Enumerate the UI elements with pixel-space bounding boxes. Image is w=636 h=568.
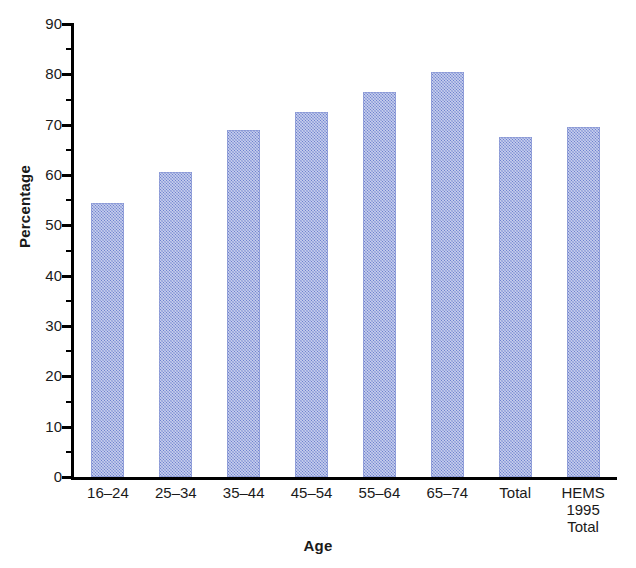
plot-area bbox=[74, 24, 617, 477]
y-axis-tick-labels: 9080706050403020100 bbox=[28, 0, 62, 568]
y-axis-tick bbox=[62, 124, 74, 127]
y-tick-label: 70 bbox=[28, 117, 62, 132]
y-axis-tick bbox=[62, 325, 74, 328]
y-axis-minor-tick bbox=[66, 451, 74, 453]
bar bbox=[91, 203, 124, 477]
x-tick-label: 55–64 bbox=[346, 484, 414, 501]
x-tick-label-line: 65–74 bbox=[413, 484, 481, 501]
y-axis-minor-tick bbox=[66, 48, 74, 50]
y-axis-minor-tick bbox=[66, 350, 74, 352]
x-tick-label-line: 1995 bbox=[549, 501, 617, 518]
y-axis-tick bbox=[62, 375, 74, 378]
bar bbox=[227, 130, 260, 477]
y-tick-label: 0 bbox=[28, 469, 62, 484]
x-tick-label-line: HEMS bbox=[549, 484, 617, 501]
x-tick-label-line: 25–34 bbox=[142, 484, 210, 501]
y-tick-label: 40 bbox=[28, 268, 62, 283]
bar bbox=[159, 172, 192, 477]
y-tick-label: 20 bbox=[28, 368, 62, 383]
y-axis-minor-tick bbox=[66, 149, 74, 151]
x-tick-label-line: Total bbox=[549, 518, 617, 535]
y-axis-tick bbox=[62, 476, 74, 479]
y-tick-label: 90 bbox=[28, 16, 62, 31]
x-tick-label: 16–24 bbox=[74, 484, 142, 501]
y-axis-minor-tick bbox=[66, 250, 74, 252]
y-tick-label: 30 bbox=[28, 318, 62, 333]
y-axis-tick bbox=[62, 224, 74, 227]
x-axis-title: Age bbox=[0, 537, 636, 554]
x-tick-label: 35–44 bbox=[210, 484, 278, 501]
y-axis-tick bbox=[62, 174, 74, 177]
x-tick-label-line: Total bbox=[481, 484, 549, 501]
x-tick-label: 65–74 bbox=[413, 484, 481, 501]
y-axis-tick bbox=[62, 23, 74, 26]
y-axis-tick bbox=[62, 73, 74, 76]
bar bbox=[295, 112, 328, 477]
x-tick-label-line: 16–24 bbox=[74, 484, 142, 501]
y-axis-tick bbox=[62, 275, 74, 278]
bar bbox=[431, 72, 464, 477]
x-tick-label: 25–34 bbox=[142, 484, 210, 501]
y-axis-tick bbox=[62, 426, 74, 429]
bar-chart: Percentage 9080706050403020100 16–2425–3… bbox=[0, 0, 636, 568]
bar bbox=[567, 127, 600, 477]
bar bbox=[363, 92, 396, 477]
y-tick-label: 60 bbox=[28, 167, 62, 182]
y-axis-minor-tick bbox=[66, 401, 74, 403]
x-tick-label: 45–54 bbox=[278, 484, 346, 501]
y-axis-minor-tick bbox=[66, 199, 74, 201]
x-tick-label-line: 35–44 bbox=[210, 484, 278, 501]
y-axis-minor-tick bbox=[66, 300, 74, 302]
x-tick-label-line: 55–64 bbox=[346, 484, 414, 501]
y-axis-minor-tick bbox=[66, 99, 74, 101]
x-tick-label: HEMS1995Total bbox=[549, 484, 617, 535]
y-tick-label: 50 bbox=[28, 217, 62, 232]
y-tick-label: 80 bbox=[28, 66, 62, 81]
x-tick-label-line: 45–54 bbox=[278, 484, 346, 501]
x-axis-line bbox=[71, 477, 617, 480]
x-tick-label: Total bbox=[481, 484, 549, 501]
bar bbox=[499, 137, 532, 477]
y-tick-label: 10 bbox=[28, 419, 62, 434]
